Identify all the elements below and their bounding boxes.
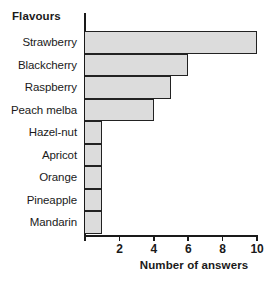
category-label-list: StrawberryBlackcherryRaspberryPeach melb… xyxy=(0,31,81,235)
bar-row xyxy=(85,166,257,189)
category-label: Raspberry xyxy=(0,76,81,99)
bar-row xyxy=(85,54,257,77)
category-label: Pineapple xyxy=(0,189,81,212)
bar-chart: Flavours StrawberryBlackcherryRaspberryP… xyxy=(0,0,277,282)
bar xyxy=(85,54,188,77)
x-axis-tick xyxy=(256,235,258,241)
value-axis-title: Number of answers xyxy=(118,259,270,271)
bar xyxy=(85,166,102,189)
bar-row xyxy=(85,144,257,167)
bar xyxy=(85,31,257,54)
category-label: Peach melba xyxy=(0,99,81,122)
x-axis-tick-label: 2 xyxy=(107,242,131,256)
bar xyxy=(85,99,154,122)
bar-row xyxy=(85,211,257,234)
x-axis-origin-tick xyxy=(84,235,86,241)
category-label: Strawberry xyxy=(0,31,81,54)
bar-row xyxy=(85,121,257,144)
x-axis-tick-label: 8 xyxy=(211,242,235,256)
x-axis-tick-label: 6 xyxy=(176,242,200,256)
bar xyxy=(85,144,102,167)
bar xyxy=(85,121,102,144)
category-axis-title: Flavours xyxy=(12,7,80,25)
bar xyxy=(85,211,102,234)
bar-row xyxy=(85,99,257,122)
x-axis-tick xyxy=(222,235,224,241)
bar-row xyxy=(85,31,257,54)
category-label: Orange xyxy=(0,166,81,189)
x-axis-line xyxy=(84,235,256,237)
bar xyxy=(85,189,102,212)
x-axis-tick xyxy=(187,235,189,241)
category-label: Blackcherry xyxy=(0,54,81,77)
category-label: Apricot xyxy=(0,144,81,167)
x-axis-tick xyxy=(153,235,155,241)
x-axis-tick-label: 4 xyxy=(142,242,166,256)
category-label: Mandarin xyxy=(0,211,81,234)
category-label: Hazel-nut xyxy=(0,121,81,144)
bar xyxy=(85,76,171,99)
x-axis-tick xyxy=(119,235,121,241)
x-axis-tick-label: 10 xyxy=(245,242,269,256)
bar-row xyxy=(85,76,257,99)
plot-area xyxy=(85,31,257,235)
bar-row xyxy=(85,189,257,212)
